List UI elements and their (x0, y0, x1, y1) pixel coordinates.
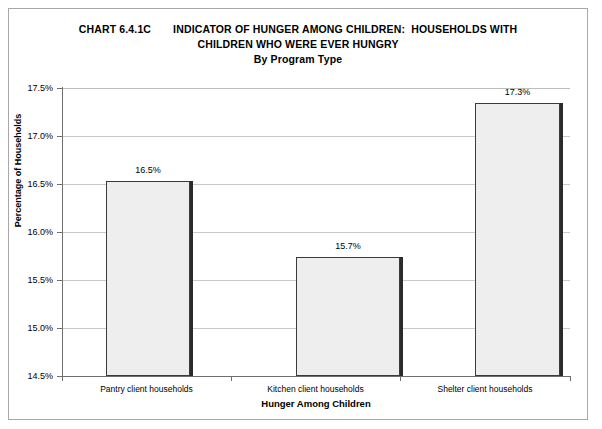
y-tick-mark-17-0 (57, 136, 62, 137)
x-tick-mark-2 (400, 376, 401, 381)
chart-title: CHART 6.4.1CINDICATOR OF HUNGER AMONG CH… (8, 22, 588, 67)
y-tick-label-15-0: 15.0% (13, 324, 53, 333)
y-tick-mark-17-5 (57, 88, 62, 89)
category-label-pantry: Pantry client households (62, 384, 231, 394)
x-tick-mark-1 (231, 376, 232, 381)
y-tick-mark-16-0 (57, 232, 62, 233)
y-tick-label-15-5: 15.5% (13, 276, 53, 285)
y-tick-mark-16-5 (57, 184, 62, 185)
bar-shelter-client-households[interactable] (475, 103, 560, 376)
bar-value-label-pantry: 16.5% (106, 166, 190, 175)
bar-pantry-client-households[interactable] (106, 181, 190, 376)
category-label-shelter: Shelter client households (400, 384, 570, 394)
x-axis-line (62, 376, 571, 377)
x-axis-title: Hunger Among Children (62, 398, 570, 409)
chart-figure: CHART 6.4.1CINDICATOR OF HUNGER AMONG CH… (0, 0, 602, 429)
chart-title-main: INDICATOR OF HUNGER AMONG CHILDREN: HOUS… (173, 23, 517, 35)
y-tick-mark-15-0 (57, 328, 62, 329)
y-tick-mark-15-5 (57, 280, 62, 281)
bar-value-label-shelter: 17.3% (475, 88, 560, 97)
bar-kitchen-client-households[interactable] (296, 257, 400, 376)
y-axis-title: Percentage of Households (14, 71, 23, 271)
bar-value-label-kitchen: 15.7% (296, 242, 400, 251)
chart-subtitle: By Program Type (8, 52, 588, 67)
y-tick-label-14-5: 14.5% (13, 372, 53, 381)
y-axis-line (62, 87, 63, 377)
chart-title-line-2: CHILDREN WHO WERE EVER HUNGRY (8, 37, 588, 52)
chart-title-line-1: CHART 6.4.1CINDICATOR OF HUNGER AMONG CH… (8, 22, 588, 37)
x-tick-mark-end (570, 376, 571, 381)
x-tick-mark-start (62, 376, 63, 381)
chart-number-label: CHART 6.4.1C (79, 23, 151, 35)
category-label-kitchen: Kitchen client households (231, 384, 400, 394)
